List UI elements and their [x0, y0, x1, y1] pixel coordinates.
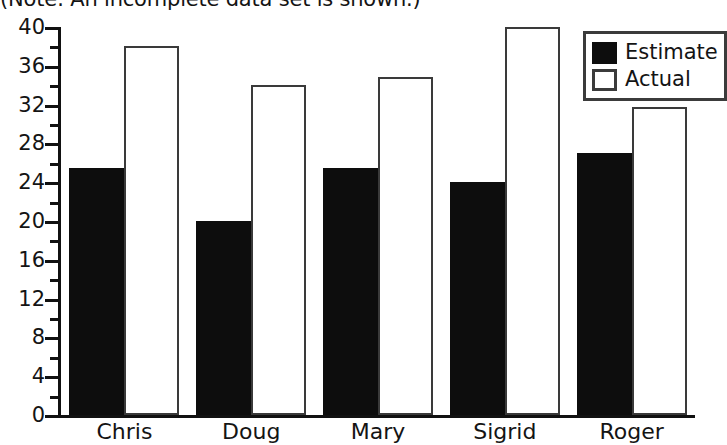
y-tick-minor — [50, 202, 59, 205]
y-tick-major — [45, 66, 59, 69]
y-tick-minor — [50, 396, 59, 399]
y-tick-minor — [50, 46, 59, 49]
legend-label-estimate: Estimate — [625, 42, 718, 63]
y-tick-label: 8 — [3, 327, 45, 348]
legend-label-actual: Actual — [625, 69, 691, 90]
y-tick-label: 20 — [3, 211, 45, 232]
legend-swatch-actual-icon — [592, 69, 617, 91]
y-tick-major — [45, 299, 59, 302]
y-tick-label: 36 — [3, 56, 45, 77]
bar-chris-actual — [124, 46, 179, 415]
y-tick-minor — [50, 163, 59, 166]
legend-item-estimate: Estimate — [592, 39, 718, 66]
y-tick-label: 40 — [3, 17, 45, 38]
x-axis-label-sigrid: Sigrid — [438, 419, 572, 445]
y-tick-minor — [50, 85, 59, 88]
x-axis-label-roger: Roger — [565, 419, 699, 445]
x-axis-line — [45, 415, 695, 418]
y-tick-label: 16 — [3, 250, 45, 271]
y-tick-minor — [50, 240, 59, 243]
legend-swatch-estimate-icon — [592, 42, 617, 64]
y-tick-minor — [50, 318, 59, 321]
y-tick-major — [45, 337, 59, 340]
bar-mary-actual — [378, 77, 433, 415]
y-tick-minor — [50, 357, 59, 360]
bar-doug-estimate — [196, 221, 251, 415]
bar-sigrid-actual — [505, 27, 560, 415]
y-tick-major — [45, 27, 59, 30]
legend-item-actual: Actual — [592, 66, 718, 93]
y-tick-minor — [50, 124, 59, 127]
x-axis-label-chris: Chris — [57, 419, 191, 445]
y-tick-label: 0 — [3, 405, 45, 426]
y-tick-label: 24 — [3, 172, 45, 193]
bar-sigrid-estimate — [450, 182, 505, 415]
bar-chris-estimate — [69, 168, 124, 415]
x-axis-label-mary: Mary — [311, 419, 445, 445]
bar-roger-estimate — [577, 153, 632, 415]
y-tick-major — [45, 376, 59, 379]
y-tick-major — [45, 221, 59, 224]
x-axis-label-doug: Doug — [184, 419, 318, 445]
bar-roger-actual — [632, 107, 687, 415]
y-tick-label: 28 — [3, 133, 45, 154]
y-tick-major — [45, 105, 59, 108]
y-tick-label: 12 — [3, 289, 45, 310]
y-tick-label: 32 — [3, 95, 45, 116]
y-tick-major — [45, 415, 59, 418]
bar-doug-actual — [251, 85, 306, 415]
y-tick-major — [45, 182, 59, 185]
y-tick-label: 4 — [3, 366, 45, 387]
y-tick-major — [45, 143, 59, 146]
chart-legend: Estimate Actual — [583, 31, 727, 101]
bar-mary-estimate — [323, 168, 378, 415]
y-tick-major — [45, 260, 59, 263]
y-tick-minor — [50, 279, 59, 282]
